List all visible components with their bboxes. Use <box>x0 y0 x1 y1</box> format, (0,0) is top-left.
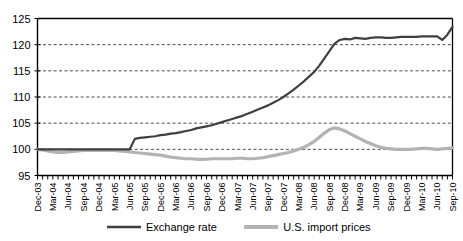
x-tick-label: Jun-08 <box>309 183 319 211</box>
x-tick-label: Mar-04 <box>48 183 58 212</box>
y-tick-label: 110 <box>13 91 31 103</box>
x-tick-label: Mar-09 <box>355 183 365 212</box>
x-tick-label: Dec-03 <box>33 183 43 212</box>
data-series <box>38 27 453 159</box>
y-tick-label: 100 <box>12 143 30 155</box>
x-tick-label: Dec-06 <box>217 183 227 212</box>
x-tick-label: Sep-07 <box>263 183 273 212</box>
x-tick-label: Mar-06 <box>171 183 181 212</box>
x-tick-label: Sep-10 <box>448 183 458 212</box>
line-chart: 95100105110115120125 Dec-03Mar-04Jun-04S… <box>0 0 463 241</box>
y-tick-label: 115 <box>13 65 31 77</box>
x-tick-label: Sep-09 <box>386 183 396 212</box>
x-tick-label: Jun-04 <box>63 183 73 211</box>
x-tick-label: Dec-04 <box>94 183 104 212</box>
chart-legend: Exchange rateU.S. import prices <box>107 221 371 233</box>
x-tick-label: Dec-08 <box>340 183 350 212</box>
y-tick-label: 120 <box>12 39 30 51</box>
x-tick-label: Sep-08 <box>325 183 335 212</box>
x-tick-label: Mar-10 <box>417 183 427 212</box>
x-tick-label: Sep-06 <box>202 183 212 212</box>
chart-container: 95100105110115120125 Dec-03Mar-04Jun-04S… <box>0 0 463 241</box>
x-tick-label: Mar-08 <box>294 183 304 212</box>
x-tick-label: Dec-07 <box>279 183 289 212</box>
x-tick-label: Jun-06 <box>186 183 196 211</box>
y-tick-label: 125 <box>12 13 30 25</box>
x-tick-label: Sep-05 <box>140 183 150 212</box>
x-tick-label: Mar-07 <box>233 183 243 212</box>
y-axis-tick-labels: 95100105110115120125 <box>12 13 30 182</box>
x-tick-label: Jun-07 <box>248 183 258 211</box>
x-tick-label: Jun-09 <box>371 183 381 211</box>
series-line <box>38 128 453 159</box>
gridlines <box>38 45 453 150</box>
y-tick-label: 105 <box>12 117 30 129</box>
x-tick-label: Dec-05 <box>156 183 166 212</box>
legend-label: Exchange rate <box>146 221 217 233</box>
x-tick-label: Jun-10 <box>432 183 442 211</box>
x-tick-label: Sep-04 <box>79 183 89 212</box>
y-tick-label: 95 <box>18 170 30 182</box>
x-tick-label: Dec-09 <box>402 183 412 212</box>
x-axis-tick-labels: Dec-03Mar-04Jun-04Sep-04Dec-04Mar-05Jun-… <box>33 183 458 212</box>
x-tick-label: Mar-05 <box>110 183 120 212</box>
x-tick-label: Jun-05 <box>125 183 135 211</box>
legend-label: U.S. import prices <box>283 221 371 233</box>
series-line <box>38 27 453 149</box>
